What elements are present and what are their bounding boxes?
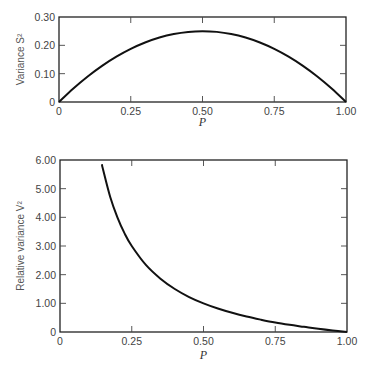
plot-frame [60, 160, 347, 332]
y-tick-label: 0.10 [35, 68, 56, 80]
data-curve [59, 31, 346, 102]
y-axis-title: Relative variance V² [15, 201, 26, 291]
x-tick-label: 0.25 [122, 335, 143, 347]
y-tick-label: 3.00 [36, 240, 57, 252]
data-curve [102, 164, 347, 332]
y-tick-label: 0 [49, 96, 55, 108]
relative-variance-chart: 00.250.500.751.0001.002.003.004.005.006.… [15, 154, 357, 362]
y-tick-label: 0 [50, 326, 56, 338]
y-tick-label: 4.00 [36, 211, 57, 223]
y-axis-title: Variance S² [15, 33, 26, 85]
x-tick-label: 0.25 [121, 105, 142, 117]
y-tick-label: 1.00 [36, 297, 57, 309]
y-tick-label: 0.20 [35, 39, 56, 51]
y-tick-label: 5.00 [36, 183, 57, 195]
x-tick-label: 0.50 [193, 335, 214, 347]
x-tick-label: 0.75 [264, 105, 285, 117]
chart-canvas: 00.250.500.751.0000.100.200.30Variance S… [0, 0, 367, 374]
y-tick-label: 2.00 [36, 269, 57, 281]
plot-frame [59, 17, 346, 102]
y-tick-label: 0.30 [35, 11, 56, 23]
x-tick-label: 0.75 [265, 335, 286, 347]
x-tick-label: 0 [57, 335, 63, 347]
x-axis-title: P [198, 115, 207, 129]
x-tick-label: 1.00 [336, 105, 357, 117]
variance-chart: 00.250.500.751.0000.100.200.30Variance S… [15, 11, 356, 129]
y-tick-label: 6.00 [36, 154, 57, 166]
x-tick-label: 0 [56, 105, 62, 117]
x-tick-label: 1.00 [337, 335, 358, 347]
x-axis-title: P [199, 348, 208, 362]
